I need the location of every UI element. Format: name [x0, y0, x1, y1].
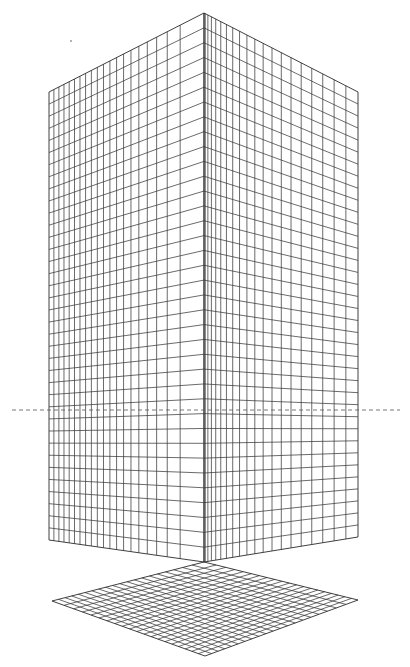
grid-line — [49, 147, 204, 201]
grid-line — [49, 339, 204, 358]
grid-line — [49, 325, 204, 347]
grid-line — [49, 399, 204, 407]
block-left-face-grid — [49, 13, 204, 562]
grid-line — [198, 598, 351, 653]
grid-line — [49, 191, 204, 237]
grid-line — [49, 528, 204, 547]
grid-line — [49, 414, 204, 419]
grid-line — [49, 161, 204, 213]
grid-line — [49, 295, 204, 322]
grid-line — [49, 504, 204, 518]
grid-line — [49, 384, 204, 395]
grid-line — [49, 265, 204, 298]
floor-plane-grid — [52, 562, 358, 656]
grid-line — [49, 87, 204, 152]
grid-line — [205, 600, 358, 656]
grid-line — [49, 102, 204, 165]
grid-line — [49, 540, 204, 562]
grid-line — [49, 492, 204, 503]
grid-line — [49, 72, 204, 140]
grid-line — [49, 467, 204, 473]
grid-line — [49, 280, 204, 310]
grid-line — [49, 516, 204, 533]
grid-line — [122, 579, 274, 626]
grid-line — [52, 562, 204, 601]
block-right-face-grid — [204, 13, 358, 562]
grid-line — [49, 43, 204, 117]
grid-line — [49, 479, 204, 487]
perspective-grid-drawing — [0, 0, 410, 667]
grid-line — [49, 206, 204, 250]
grid-line — [49, 176, 204, 225]
grid-line — [115, 578, 267, 624]
grid-line — [49, 428, 204, 431]
grid-line — [192, 565, 346, 604]
grid-line — [49, 132, 204, 189]
marker-dot — [70, 40, 72, 42]
grid-line — [49, 117, 204, 177]
grid-line — [64, 565, 216, 605]
grid-line — [49, 369, 204, 382]
grid-line — [49, 310, 204, 334]
grid-line — [49, 455, 204, 458]
grid-line — [49, 13, 204, 92]
marker-dot — [70, 40, 72, 42]
grid-line — [49, 354, 204, 370]
